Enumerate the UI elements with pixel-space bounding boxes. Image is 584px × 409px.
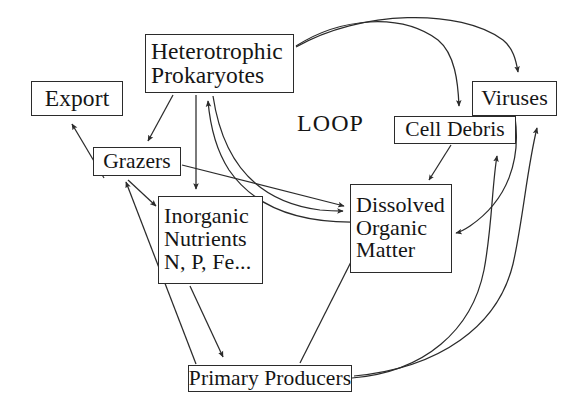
edge-cell-debris-to-dom — [429, 145, 451, 180]
microbial-loop-diagram: Heterotrophic Prokaryotes Export Grazers… — [0, 0, 584, 409]
edge-grazers-to-inorganic-nutrients — [128, 180, 156, 206]
edge-hp-to-viruses — [296, 18, 518, 72]
node-grazers[interactable]: Grazers — [93, 147, 181, 176]
node-viruses[interactable]: Viruses — [472, 81, 557, 116]
edge-hp-to-grazers — [148, 95, 173, 141]
node-label-line: Organic — [356, 217, 427, 240]
node-label-line: Export — [45, 86, 110, 110]
node-primary-producers[interactable]: Primary Producers — [188, 365, 352, 392]
node-label-line: Prokaryotes — [151, 63, 264, 87]
edge-inorganic-nutrients-to-primary-producers — [190, 286, 223, 357]
node-cell-debris[interactable]: Cell Debris — [394, 116, 516, 144]
edge-primary-producers-to-dom — [300, 252, 356, 363]
node-label-line: Primary Producers — [189, 367, 351, 389]
node-label-line: N, P, Fe... — [164, 251, 251, 274]
node-heterotrophic-prokaryotes[interactable]: Heterotrophic Prokaryotes — [145, 34, 294, 93]
node-label-line: Inorganic — [164, 205, 249, 228]
edge-hp-to-cell-debris — [296, 22, 459, 106]
node-label-line: Grazers — [103, 150, 171, 172]
node-label-line: Matter — [356, 239, 415, 262]
node-label-line: Viruses — [481, 87, 548, 110]
node-label-line: Cell Debris — [405, 118, 505, 140]
node-export[interactable]: Export — [31, 81, 123, 116]
node-label-line: Nutrients — [164, 228, 247, 251]
node-dissolved-organic-matter[interactable]: Dissolved Organic Matter — [350, 184, 452, 273]
node-label-line: Heterotrophic — [151, 39, 283, 63]
node-label-line: Dissolved — [356, 194, 445, 217]
loop-label: LOOP — [297, 110, 364, 137]
node-inorganic-nutrients[interactable]: Inorganic Nutrients N, P, Fe... — [158, 196, 263, 284]
